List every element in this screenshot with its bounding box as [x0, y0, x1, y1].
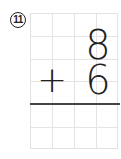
bottom-digit: 6: [80, 61, 116, 99]
grid-line: [31, 127, 117, 128]
answer-line: [30, 103, 120, 105]
plus-operator: +: [37, 62, 67, 98]
problem-number-badge: 11: [10, 12, 26, 28]
